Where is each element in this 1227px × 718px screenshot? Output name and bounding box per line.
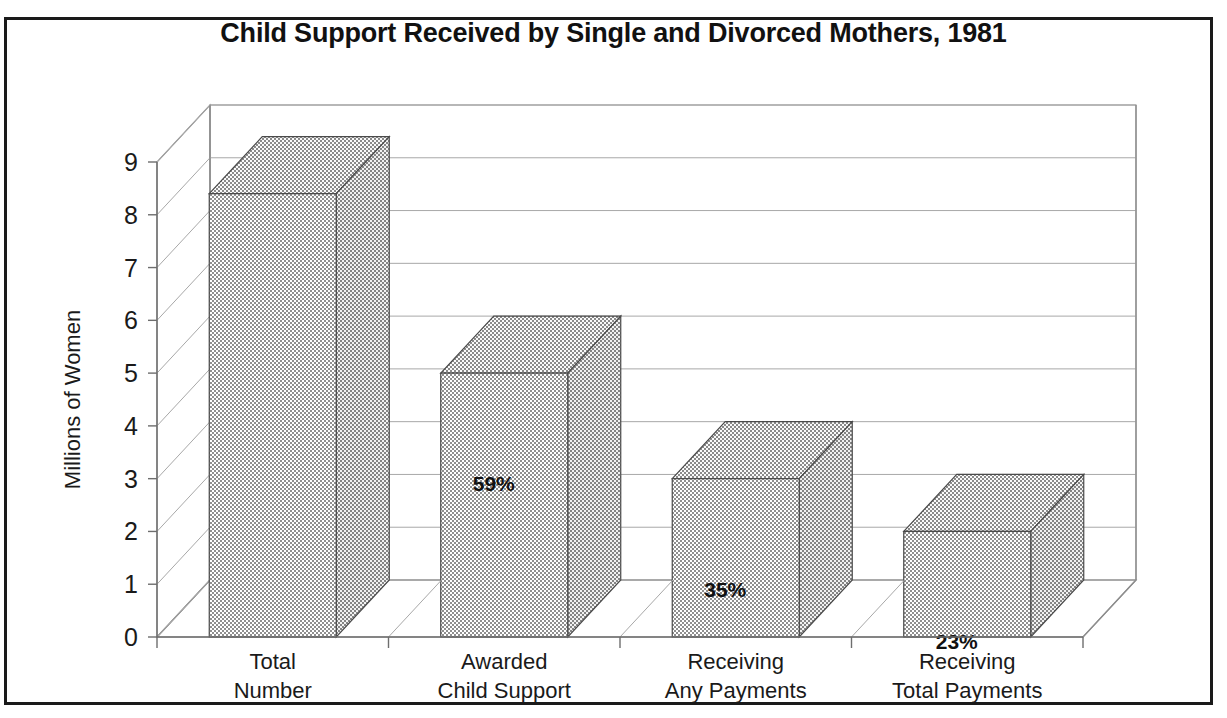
- bar-chart-3d: 0123456789 59%35%23% TotalNumberAwardedC…: [0, 0, 1227, 718]
- x-category-label: Receiving: [919, 649, 1016, 674]
- bar-front-face: [209, 194, 336, 637]
- y-tick-label: 5: [124, 359, 138, 387]
- y-tick-label: 8: [124, 201, 138, 229]
- bar-3: 35%: [672, 422, 852, 637]
- y-tick-label: 9: [124, 148, 138, 176]
- y-axis-title-text: Millions of Women: [60, 310, 85, 489]
- x-category-label: Number: [234, 678, 312, 703]
- y-tick-label: 2: [124, 517, 138, 545]
- y-tick-label: 7: [124, 254, 138, 282]
- bar-group: 59%35%23%: [209, 137, 1084, 654]
- x-category-label: Any Payments: [665, 678, 807, 703]
- screenshot-root: Child Support Received by Single and Div…: [0, 0, 1227, 718]
- y-axis-tick-labels: 0123456789: [124, 148, 138, 651]
- bar-1: [209, 137, 389, 637]
- y-tick-label: 4: [124, 412, 138, 440]
- y-tick-label: 1: [124, 570, 138, 598]
- bar-front-face: [672, 479, 799, 637]
- bar-side-face: [568, 316, 621, 637]
- y-tick-label: 6: [124, 306, 138, 334]
- bar-front-face: [441, 373, 568, 637]
- bar-data-label: 59%: [473, 472, 515, 495]
- x-category-label: Total Payments: [892, 678, 1042, 703]
- bar-data-label: 35%: [704, 578, 746, 601]
- y-axis-title: Millions of Women: [60, 310, 85, 489]
- bar-2: 59%: [441, 316, 621, 637]
- x-axis-category-labels: TotalNumberAwardedChild SupportReceiving…: [234, 649, 1043, 703]
- y-tick-label: 0: [124, 623, 138, 651]
- y-tick-label: 3: [124, 465, 138, 493]
- x-category-label: Child Support: [438, 678, 571, 703]
- x-category-label: Receiving: [687, 649, 784, 674]
- bar-4: 23%: [904, 474, 1084, 653]
- x-category-label: Total: [250, 649, 296, 674]
- bar-front-face: [904, 531, 1031, 637]
- bar-side-face: [336, 137, 389, 637]
- x-category-label: Awarded: [461, 649, 547, 674]
